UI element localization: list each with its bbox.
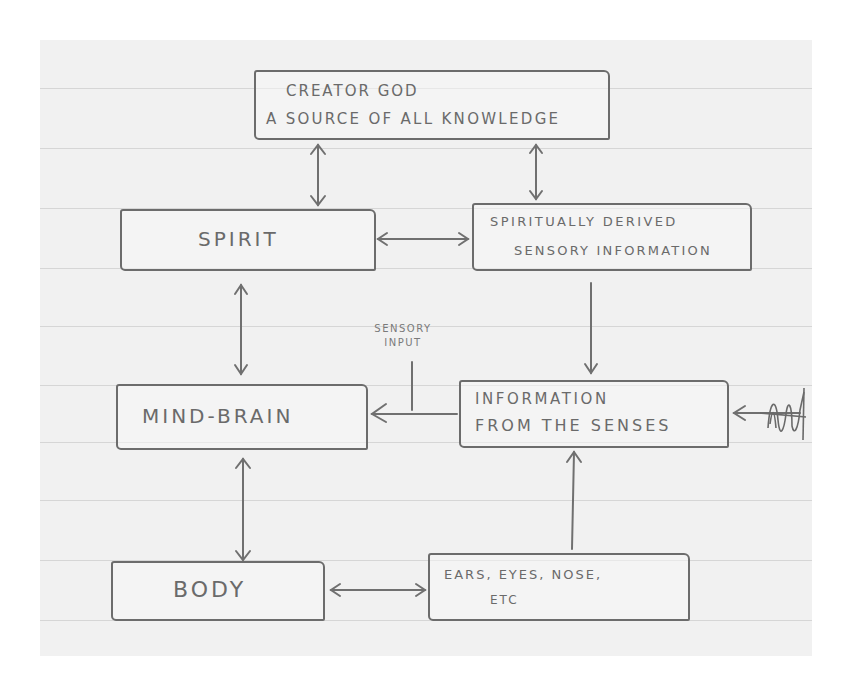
ruled-line bbox=[40, 148, 812, 149]
node-sense-organs-line2: ETC bbox=[490, 593, 519, 607]
node-spiritually-derived-info-line1: SPIRITUALLY DERIVED bbox=[490, 214, 678, 229]
node-spirit-label: SPIRIT bbox=[198, 227, 279, 251]
annotation-sensory-input-line2: INPUT bbox=[358, 336, 448, 350]
annotation-sensory-input-line1: SENSORY bbox=[358, 322, 448, 336]
node-creator-god-line1: CREATOR GOD bbox=[286, 82, 419, 100]
node-creator-god: CREATOR GOD A SOURCE OF ALL KNOWLEDGE bbox=[254, 70, 610, 140]
node-body: BODY bbox=[111, 561, 325, 621]
node-body-label: BODY bbox=[173, 577, 246, 602]
node-mind-brain: MIND-BRAIN bbox=[116, 384, 368, 450]
annotation-sensory-input: SENSORY INPUT bbox=[358, 322, 448, 350]
node-sense-organs: EARS, EYES, NOSE, ETC bbox=[428, 553, 690, 621]
node-mind-brain-label: MIND-BRAIN bbox=[142, 404, 293, 428]
node-spiritually-derived-info-line2: SENSORY INFORMATION bbox=[514, 243, 712, 258]
node-information-from-senses: INFORMATION FROM THE SENSES bbox=[459, 380, 729, 448]
node-creator-god-line2: A SOURCE OF ALL KNOWLEDGE bbox=[266, 110, 560, 128]
node-spirit: SPIRIT bbox=[120, 209, 376, 271]
node-information-from-senses-line2: FROM THE SENSES bbox=[475, 416, 671, 435]
node-information-from-senses-line1: INFORMATION bbox=[475, 390, 609, 408]
node-sense-organs-line1: EARS, EYES, NOSE, bbox=[444, 567, 602, 582]
ruled-line bbox=[40, 500, 812, 501]
node-spiritually-derived-info: SPIRITUALLY DERIVED SENSORY INFORMATION bbox=[472, 203, 752, 271]
